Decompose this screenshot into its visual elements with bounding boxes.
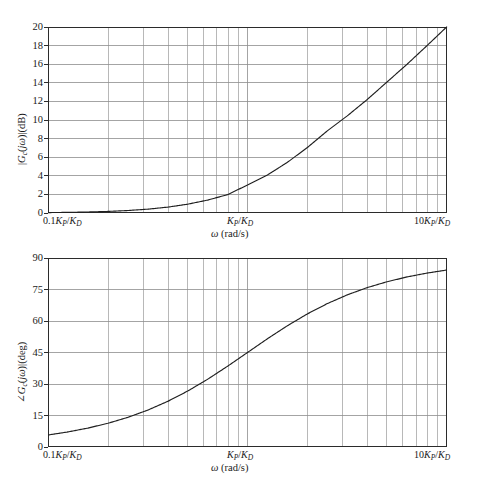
xtick-label-right: 10KP/KD (414, 450, 450, 460)
xtick-label-left: 0.1KP/KD (43, 216, 82, 226)
ytick-label: 2 (18, 189, 43, 200)
ytick-label: 0 (18, 442, 43, 453)
ytick-label: 16 (18, 59, 43, 70)
phase-panel: 90 75 60 45 30 15 0 ∠Gc(jω)|(deg) 0.1KP/… (0, 240, 485, 485)
magnitude-y-axis-title: |Gc(jω)|(dB) (17, 113, 28, 165)
xtick-label-center: KP/KD (227, 216, 253, 226)
ytick-label: 15 (18, 411, 43, 422)
ytick-label: 90 (18, 253, 43, 264)
magnitude-panel: 20 18 16 14 12 10 8 6 4 2 0 |Gc(jω)|(dB)… (0, 0, 485, 245)
xtick-label-left: 0.1KP/KD (43, 450, 82, 460)
xtick-label-right: 10KP/KD (414, 216, 450, 226)
bode-plot-figure: 20 18 16 14 12 10 8 6 4 2 0 |Gc(jω)|(dB)… (0, 0, 485, 485)
ytick-label: 12 (18, 96, 43, 107)
magnitude-plot-canvas (0, 0, 485, 245)
ytick-label: 20 (18, 22, 43, 33)
ytick-label: 4 (18, 171, 43, 182)
xtick-label-center: KP/KD (227, 450, 253, 460)
ytick-label: 75 (18, 285, 43, 296)
magnitude-x-axis-title: ω (rad/s) (211, 229, 248, 240)
ytick-label: 18 (18, 41, 43, 52)
phase-y-axis-title: ∠Gc(jω)|(deg) (17, 342, 28, 403)
ytick-label: 60 (18, 316, 43, 327)
ytick-label: 0 (18, 208, 43, 219)
phase-x-axis-title: ω (rad/s) (211, 463, 248, 474)
ytick-label: 14 (18, 78, 43, 89)
